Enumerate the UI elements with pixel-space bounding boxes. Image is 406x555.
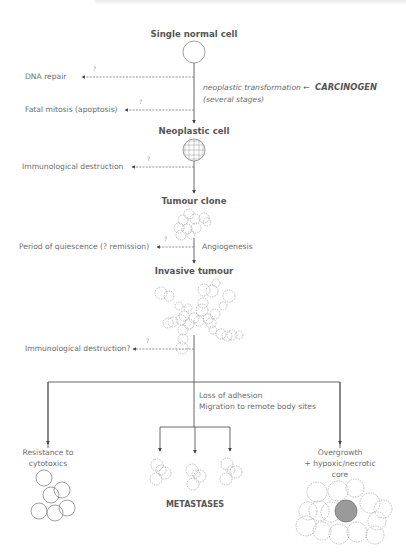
overgrowth-label-line3: core	[332, 471, 348, 479]
necrotic-core-icon	[335, 500, 357, 522]
stage-label-normal-cell: Single normal cell	[151, 30, 238, 39]
tumour-clone-icon	[174, 209, 211, 240]
angiogenesis-label: Angiogenesis	[202, 243, 253, 251]
transformation-annotation: neoplastic transformation ←	[203, 84, 310, 92]
stages-note: (several stages)	[203, 96, 264, 104]
overgrowth-label-line1: Overgrowth	[318, 449, 363, 457]
outcome-apoptosis: Fatal mitosis (apoptosis)	[25, 106, 118, 114]
migration-label: Migration to remote body sites	[199, 403, 316, 411]
outcome-quiescence: Period of quiescence (? remission)	[19, 243, 149, 251]
outcome-immunological-destruction-2: Immunological destruction?	[25, 345, 130, 353]
question-marker: ?	[139, 99, 142, 105]
invasive-tumour-icon	[155, 279, 243, 354]
resistance-label-line2: cytotoxics	[29, 460, 67, 468]
stage-label-invasive-tumour: Invasive tumour	[155, 267, 234, 276]
resistance-label-line1: Resistance to	[23, 449, 74, 457]
loss-of-adhesion-label: Loss of adhesion	[199, 392, 262, 400]
stage-label-neoplastic-cell: Neoplastic cell	[159, 127, 230, 136]
outcome-dna-repair: DNA repair	[25, 73, 66, 81]
neoplastic-cell-icon	[183, 139, 205, 161]
stage-label-tumour-clone: Tumour clone	[161, 197, 226, 206]
overgrowth-label-line2: + hypoxic/necrotic	[304, 460, 375, 468]
metastases-icons	[150, 458, 242, 490]
question-marker: ?	[146, 338, 149, 344]
carcinogen-label: CARCINOGEN	[315, 83, 377, 91]
outcome-immunological-destruction: Immunological destruction	[22, 163, 123, 171]
question-marker: ?	[93, 66, 96, 72]
question-marker: ?	[147, 156, 150, 162]
metastases-label: METASTASES	[166, 501, 224, 509]
question-marker: ?	[164, 236, 167, 242]
normal-cell-icon	[183, 41, 205, 63]
resistant-cells-icon	[31, 470, 75, 521]
